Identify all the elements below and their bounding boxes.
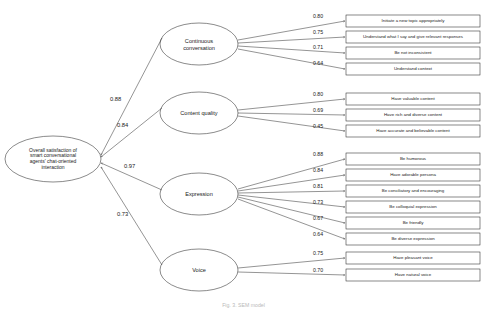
loading-label-cc-3: 0.71 [313, 44, 323, 50]
loading-edge-ex-1 [238, 159, 345, 189]
indicator-box-ex-5 [346, 217, 480, 229]
loading-label-ex-4: 0.73 [313, 199, 323, 205]
path-coefficient-continuous-conversation: 0.88 [110, 96, 121, 102]
loading-label-vo-1: 0.75 [313, 250, 323, 256]
indicator-box-ex-4 [346, 201, 480, 213]
loading-edge-vo-1 [238, 258, 345, 268]
indicator-box-vo-1 [346, 252, 480, 264]
indicator-box-ex-6 [346, 233, 480, 245]
loading-edge-ex-2 [238, 175, 345, 191]
indicator-box-cq-3 [346, 125, 480, 137]
loading-label-cc-2: 0.75 [313, 29, 323, 35]
structural-path-content-quality [101, 108, 162, 157]
indicator-box-cc-3 [346, 47, 480, 59]
loading-label-ex-1: 0.88 [313, 151, 323, 157]
loading-label-ex-5: 0.67 [313, 215, 323, 221]
loading-label-ex-2: 0.84 [313, 167, 323, 173]
loading-label-ex-3: 0.81 [313, 183, 323, 189]
loading-label-cc-1: 0.80 [313, 13, 323, 19]
path-coefficient-expression: 0.97 [124, 163, 135, 169]
indicator-box-ex-2 [346, 169, 480, 181]
latent-ellipse-voice [160, 249, 238, 291]
path-coefficient-content-quality: 0.84 [117, 122, 128, 128]
loading-edge-vo-2 [238, 272, 345, 275]
indicator-box-ex-1 [346, 153, 480, 165]
loading-label-cq-1: 0.80 [313, 91, 323, 97]
loading-label-vo-2: 0.70 [313, 267, 323, 273]
loading-label-cq-2: 0.69 [313, 107, 323, 113]
indicator-box-cq-1 [346, 93, 480, 105]
loading-label-cq-3: 0.45 [313, 123, 323, 129]
latent-ellipse-expression [160, 173, 238, 215]
sem-diagram: Overall satisfaction of smart conversati… [0, 0, 487, 309]
indicator-box-cc-4 [346, 63, 480, 75]
loading-edge-cq-2 [238, 113, 345, 115]
indicator-box-vo-2 [346, 269, 480, 281]
diagram-edges-layer [0, 0, 487, 309]
loading-label-cc-4: 0.64 [313, 60, 323, 66]
latent-ellipse-continuous-conversation [160, 23, 238, 65]
loading-edge-cq-3 [238, 116, 345, 131]
loading-edge-cc-2 [238, 37, 345, 43]
structural-path-voice [101, 167, 162, 265]
indicator-box-ex-3 [346, 185, 480, 197]
indicator-box-cc-2 [346, 31, 480, 43]
loading-edge-ex-3 [238, 191, 345, 193]
indicator-box-cc-1 [346, 15, 480, 27]
exogenous-latent-ellipse [5, 136, 101, 182]
loading-edge-cq-1 [238, 99, 345, 110]
loading-label-ex-6: 0.64 [313, 231, 323, 237]
latent-ellipse-content-quality [160, 92, 238, 134]
indicator-box-cq-2 [346, 109, 480, 121]
path-coefficient-voice: 0.73 [117, 211, 128, 217]
figure-caption: Fig. 3. SEM model [0, 302, 487, 308]
loading-edge-cc-1 [238, 21, 345, 40]
